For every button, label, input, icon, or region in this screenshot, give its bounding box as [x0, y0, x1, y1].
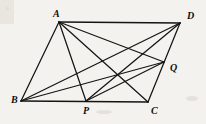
vertex-label-A: A — [52, 8, 60, 19]
vertex-label-Q: Q — [170, 62, 177, 73]
segment-AD — [59, 22, 180, 23]
segment-AB — [21, 22, 59, 101]
geometry-diagram: ADBPCQ — [0, 0, 206, 124]
segment-BC — [21, 101, 148, 102]
figure-canvas: ADBPCQ — [0, 0, 206, 124]
vertex-label-D: D — [186, 10, 194, 21]
vertex-label-P: P — [83, 105, 90, 116]
segment-layer — [21, 22, 180, 102]
vertex-label-B: B — [10, 94, 18, 105]
vertex-label-C: C — [151, 105, 158, 116]
vertex-label-layer: ADBPCQ — [10, 8, 194, 116]
